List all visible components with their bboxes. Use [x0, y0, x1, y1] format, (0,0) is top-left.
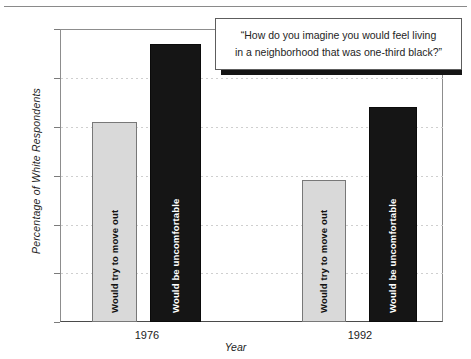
- survey-question-callout: “How do you imagine you would feel livin…: [215, 18, 462, 70]
- x-tick-label-1992: 1992: [300, 329, 420, 341]
- bar-chart-figure: Percentage of White Respondents 60 50 40…: [0, 0, 471, 359]
- gridline-50: [61, 78, 443, 79]
- y-tick-mark-0: [54, 322, 60, 323]
- bar-1992-would-be-uncomfortable[interactable]: Would be uncomfortable: [369, 107, 417, 322]
- bar-label: Would be uncomfortable: [387, 199, 398, 313]
- bar-1976-would-try-to-move-out[interactable]: Would try to move out: [92, 122, 137, 322]
- bar-label: Would try to move out: [318, 210, 329, 313]
- callout-line-1: “How do you imagine you would feel livin…: [241, 27, 437, 44]
- bar-label: Would be uncomfortable: [169, 199, 180, 313]
- bar-1976-would-be-uncomfortable[interactable]: Would be uncomfortable: [150, 44, 201, 322]
- bar-1992-would-try-to-move-out[interactable]: Would try to move out: [302, 180, 346, 322]
- y-axis-title: Percentage of White Respondents: [30, 61, 42, 281]
- x-tick-label-1976: 1976: [87, 329, 207, 341]
- bar-label: Would try to move out: [108, 210, 119, 313]
- x-axis-title: Year: [0, 341, 471, 353]
- callout-line-2: in a neighborhood that was one-third bla…: [235, 44, 442, 61]
- top-divider-rule: [4, 6, 467, 7]
